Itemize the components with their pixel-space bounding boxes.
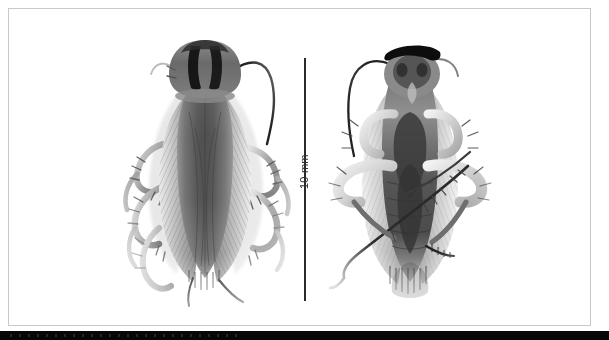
bottom-edge-artifacts bbox=[10, 334, 240, 337]
specimen-dorsal-view bbox=[115, 16, 295, 312]
specimen-ventral-view bbox=[320, 16, 500, 312]
figure-root: 10 mm bbox=[0, 0, 609, 340]
scale-bar-label: 10 mm bbox=[296, 148, 312, 196]
